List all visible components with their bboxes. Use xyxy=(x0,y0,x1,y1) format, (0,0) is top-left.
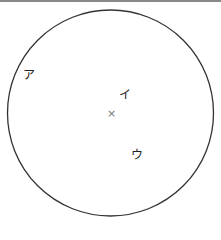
label-i: イ xyxy=(119,89,131,101)
label-a: ア xyxy=(23,69,35,81)
label-u: ウ xyxy=(131,149,143,161)
center-mark: × xyxy=(107,108,116,119)
